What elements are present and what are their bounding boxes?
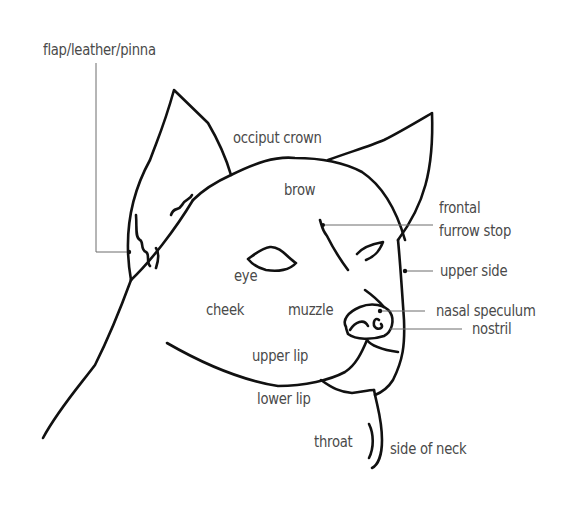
leader-dot-frontal xyxy=(321,223,325,227)
nostril-c xyxy=(374,319,382,329)
label-furrow-stop: furrow stop xyxy=(439,222,511,240)
left-ear-inner-fold xyxy=(136,215,150,266)
dog-head-line-art xyxy=(0,0,583,513)
face-right-outline xyxy=(375,240,404,395)
label-flap-leather-pinna: flap/leather/pinna xyxy=(43,41,156,59)
leader-dot-upper-side xyxy=(403,269,407,273)
label-frontal: frontal xyxy=(439,199,480,217)
chin-line xyxy=(321,380,374,393)
label-brow: brow xyxy=(284,181,315,199)
neck-right-outline xyxy=(372,390,382,468)
right-ear-outline xyxy=(328,113,432,240)
nose-outline xyxy=(345,305,393,339)
label-occiput-crown: occiput crown xyxy=(233,129,322,147)
nostril-curve xyxy=(350,322,368,330)
label-eye: eye xyxy=(234,267,257,285)
label-nostril: nostril xyxy=(472,320,511,338)
leader-dot-flap xyxy=(127,250,131,254)
dog-head-diagram: flap/leather/pinna occiput crown brow fr… xyxy=(0,0,583,513)
label-upper-lip: upper lip xyxy=(252,347,308,365)
label-side-of-neck: side of neck xyxy=(390,440,466,458)
label-nasal-speculum: nasal speculum xyxy=(436,302,535,320)
leader-flap xyxy=(96,63,129,252)
leader-dot-nasal-speculum xyxy=(378,309,382,313)
label-muzzle: muzzle xyxy=(288,301,333,319)
label-lower-lip: lower lip xyxy=(257,390,311,408)
label-throat: throat xyxy=(314,433,352,451)
label-upper-side: upper side xyxy=(440,262,507,280)
philtrum-line xyxy=(367,340,398,352)
right-eye-outline xyxy=(357,242,383,260)
frontal-furrow-line xyxy=(320,220,348,270)
left-ear-inner-fold-2 xyxy=(156,248,158,268)
neck-left-outline xyxy=(43,280,131,438)
throat-fold xyxy=(369,424,373,458)
label-cheek: cheek xyxy=(206,301,244,319)
